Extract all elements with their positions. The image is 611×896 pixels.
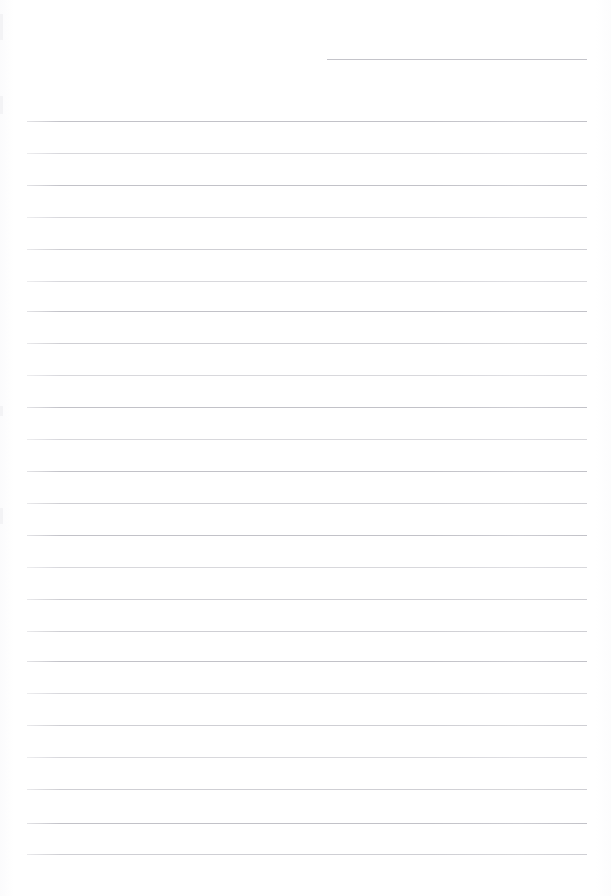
scan-edge-artifact bbox=[0, 508, 3, 524]
rule-line bbox=[27, 854, 587, 855]
rule-line bbox=[27, 567, 587, 568]
header-rule bbox=[327, 59, 587, 60]
paper-surface bbox=[0, 0, 611, 896]
rule-line bbox=[27, 281, 587, 282]
rule-line bbox=[27, 217, 587, 218]
rule-line bbox=[27, 121, 587, 122]
rule-line bbox=[27, 823, 587, 824]
rule-line bbox=[27, 375, 587, 376]
rule-line bbox=[27, 439, 587, 440]
rule-line bbox=[27, 789, 587, 790]
rule-line bbox=[27, 153, 587, 154]
scanned-page: Blank ruled notebook page No handwriting… bbox=[0, 0, 611, 896]
rule-line bbox=[27, 631, 587, 632]
content-note: No handwriting or printed text present bbox=[0, 0, 1, 1]
rule-line bbox=[27, 311, 587, 312]
rule-line bbox=[27, 407, 587, 408]
page-label: Blank ruled notebook page bbox=[0, 0, 1, 1]
scan-edge-artifact bbox=[0, 14, 3, 40]
rule-line bbox=[27, 599, 587, 600]
scan-edge-artifact bbox=[0, 96, 3, 114]
rule-line bbox=[27, 661, 587, 662]
scan-edge-artifact bbox=[0, 406, 3, 416]
rule-line bbox=[27, 343, 587, 344]
rule-line bbox=[27, 503, 587, 504]
rule-line bbox=[27, 757, 587, 758]
rule-line bbox=[27, 249, 587, 250]
rule-line bbox=[27, 535, 587, 536]
rule-line bbox=[27, 471, 587, 472]
rule-line bbox=[27, 693, 587, 694]
rule-line bbox=[27, 725, 587, 726]
rule-line bbox=[27, 185, 587, 186]
